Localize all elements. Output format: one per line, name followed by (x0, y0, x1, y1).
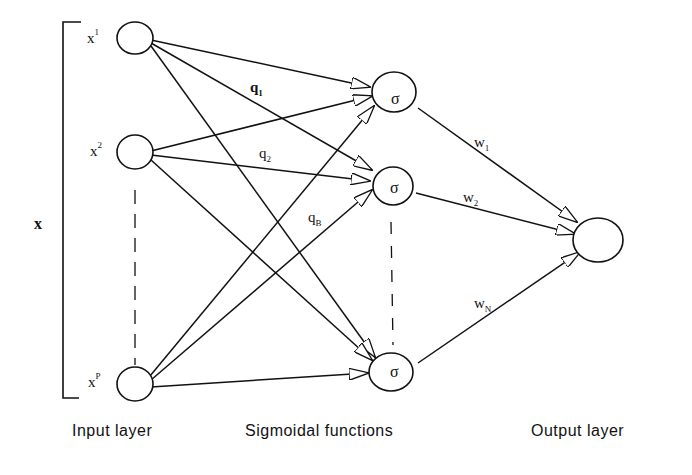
weight-label-wn: wN (474, 296, 491, 311)
input-label-1: x1 (87, 31, 99, 46)
hidden-sigma-2: σ (390, 180, 399, 196)
weight-label-q2: q2 (259, 146, 271, 161)
caption-output-layer: Output layer (531, 422, 624, 440)
weight-label-qb: qB (308, 210, 322, 225)
input-node-p (117, 367, 153, 401)
network-diagram (0, 0, 692, 475)
input-vector-label: x (34, 216, 42, 232)
hidden-sigma-1: σ (391, 91, 400, 107)
hidden-to-output-edges (416, 108, 580, 363)
input-node-2 (117, 135, 153, 169)
hidden-ellipsis-dash (391, 222, 393, 345)
caption-input-layer: Input layer (72, 422, 152, 440)
input-node-1 (117, 22, 153, 54)
weight-label-w2: w2 (463, 190, 478, 205)
input-label-2: x2 (90, 144, 102, 159)
weight-label-w1: w1 (474, 135, 489, 150)
weight-label-q1: q1 (250, 80, 263, 95)
caption-sigmoidal-functions: Sigmoidal functions (245, 422, 393, 440)
input-label-p: xP (88, 375, 101, 390)
output-node (573, 218, 623, 262)
hidden-sigma-n: σ (390, 364, 399, 380)
input-vector-bracket (63, 22, 81, 398)
